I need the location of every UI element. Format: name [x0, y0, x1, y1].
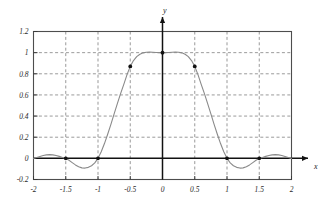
data-point-marker	[128, 64, 132, 68]
y-tick-label: -0.2	[17, 175, 29, 184]
y-tick-label: 0.6	[19, 91, 29, 100]
data-point-marker	[257, 156, 261, 160]
data-point-marker	[64, 156, 68, 160]
data-point-marker	[193, 64, 197, 68]
x-axis-tick-labels: -2-1.5-1-0.500.511.52	[30, 185, 293, 194]
x-tick-label: -1.5	[60, 185, 72, 194]
x-tick-label: 1.5	[255, 185, 265, 194]
data-point-marker	[96, 156, 100, 160]
y-axis-label: y	[162, 6, 167, 15]
y-tick-label: 0.8	[19, 70, 29, 79]
x-tick-label: 0	[161, 185, 165, 194]
y-tick-label: 0	[25, 154, 29, 163]
y-tick-label: 1.2	[19, 27, 29, 36]
y-tick-label: 0.2	[19, 133, 29, 142]
data-point-marker	[161, 51, 165, 55]
x-tick-label: 1	[225, 185, 229, 194]
x-tick-label: -1	[95, 185, 101, 194]
x-axis-label: x	[313, 162, 318, 171]
data-point-marker	[225, 156, 229, 160]
x-tick-label: 2	[290, 185, 294, 194]
y-tick-label: 1	[25, 48, 29, 57]
x-tick-label: 0.5	[190, 185, 200, 194]
y-tick-label: 0.4	[19, 112, 29, 121]
x-tick-label: -2	[30, 185, 36, 194]
plot-figure: -2-1.5-1-0.500.511.52 -0.200.20.40.60.81…	[0, 0, 327, 212]
x-tick-label: -0.5	[124, 185, 136, 194]
